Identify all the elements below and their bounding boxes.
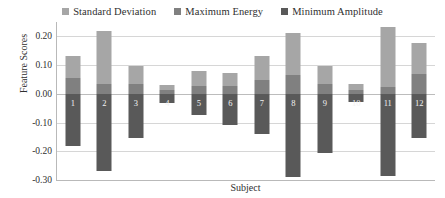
bar-segment-minimum-amplitude — [128, 94, 143, 139]
bar-segment-minimum-amplitude — [160, 94, 175, 103]
bar-slot: 9 — [309, 22, 341, 180]
bar-slot: 5 — [183, 22, 215, 180]
bar-segment-standard-deviation — [254, 56, 269, 80]
stacked-bar[interactable] — [191, 71, 206, 115]
bar-segment-standard-deviation — [191, 71, 206, 86]
x-axis-line — [56, 180, 435, 181]
y-axis-tick-label: -0.30 — [32, 175, 52, 185]
bar-segment-maximum-energy — [65, 78, 80, 94]
bar-segment-minimum-amplitude — [349, 94, 364, 103]
bar-segment-minimum-amplitude — [317, 94, 332, 153]
bar-segment-maximum-energy — [128, 84, 143, 94]
bar-slot: 1 — [57, 22, 89, 180]
bar-segment-standard-deviation — [286, 33, 301, 75]
bar-segment-minimum-amplitude — [97, 94, 112, 172]
legend-item[interactable]: Minimum Amplitude — [281, 6, 383, 17]
bar-segment-maximum-energy — [191, 86, 206, 94]
plot-area: 123456789101112 — [56, 22, 435, 180]
bar-segment-standard-deviation — [412, 43, 427, 74]
y-axis-tick-label: 0.20 — [35, 31, 52, 41]
stacked-bar[interactable] — [380, 27, 395, 176]
bar-segment-standard-deviation — [223, 73, 238, 86]
bar-segment-standard-deviation — [97, 31, 112, 84]
legend-item-label: Maximum Energy — [185, 6, 263, 17]
stacked-bar[interactable] — [317, 66, 332, 152]
chart-legend: Standard DeviationMaximum EnergyMinimum … — [0, 2, 445, 20]
bar-segment-maximum-energy — [286, 75, 301, 94]
bar-segment-maximum-energy — [412, 74, 427, 94]
legend-swatch-icon — [281, 8, 288, 15]
y-axis-tick-label: 0.10 — [35, 60, 52, 70]
bar-slot: 8 — [278, 22, 310, 180]
legend-item-label: Standard Deviation — [73, 6, 156, 17]
bar-segment-minimum-amplitude — [286, 94, 301, 177]
bar-slot: 7 — [246, 22, 278, 180]
bar-segment-minimum-amplitude — [191, 94, 206, 116]
stacked-bar[interactable] — [349, 84, 364, 102]
legend-item[interactable]: Standard Deviation — [62, 6, 156, 17]
stacked-bar[interactable] — [254, 56, 269, 134]
y-axis-tick-label: 0.00 — [35, 89, 52, 99]
legend-item[interactable]: Maximum Energy — [174, 6, 263, 17]
stacked-bar[interactable] — [97, 31, 112, 172]
bar-group: 123456789101112 — [57, 22, 435, 180]
bar-segment-standard-deviation — [65, 56, 80, 78]
stacked-bar[interactable] — [412, 43, 427, 139]
legend-swatch-icon — [62, 8, 69, 15]
bar-slot: 4 — [152, 22, 184, 180]
bar-segment-maximum-energy — [254, 80, 269, 94]
bar-slot: 12 — [404, 22, 436, 180]
legend-swatch-icon — [174, 8, 181, 15]
stacked-bar[interactable] — [160, 85, 175, 103]
y-axis-tick-labels: 0.200.100.00-0.10-0.20-0.30 — [18, 22, 52, 180]
stacked-bar[interactable] — [128, 66, 143, 138]
bar-slot: 11 — [372, 22, 404, 180]
stacked-bar[interactable] — [223, 73, 238, 125]
bar-slot: 10 — [341, 22, 373, 180]
bar-segment-minimum-amplitude — [223, 94, 238, 126]
legend-item-label: Minimum Amplitude — [292, 6, 383, 17]
bar-segment-minimum-amplitude — [380, 94, 395, 176]
bar-slot: 3 — [120, 22, 152, 180]
x-axis-title: Subject — [56, 182, 435, 193]
bar-slot: 2 — [89, 22, 121, 180]
feature-scores-chart: Standard DeviationMaximum EnergyMinimum … — [0, 0, 445, 198]
stacked-bar[interactable] — [286, 33, 301, 177]
bar-segment-maximum-energy — [223, 86, 238, 94]
y-axis-tick-label: -0.20 — [32, 146, 52, 156]
bar-segment-standard-deviation — [128, 66, 143, 84]
bar-segment-minimum-amplitude — [254, 94, 269, 134]
bar-segment-maximum-energy — [97, 84, 112, 94]
bar-segment-minimum-amplitude — [65, 94, 80, 146]
bar-segment-maximum-energy — [317, 84, 332, 94]
stacked-bar[interactable] — [65, 56, 80, 145]
bar-slot: 6 — [215, 22, 247, 180]
bar-segment-minimum-amplitude — [412, 94, 427, 139]
bar-segment-standard-deviation — [380, 27, 395, 87]
y-axis-tick-label: -0.10 — [32, 118, 52, 128]
bar-segment-standard-deviation — [317, 66, 332, 84]
